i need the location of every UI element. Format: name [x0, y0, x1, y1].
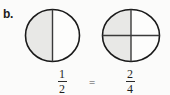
problem-label: b. [3, 8, 13, 20]
circle-quarters-figure [99, 8, 163, 63]
left-half-shaded [26, 10, 53, 62]
fraction-two-fourths: 2 4 [108, 68, 152, 95]
fraction-equivalence-figure: b. [0, 0, 170, 95]
fraction-one-half: 1 2 [40, 68, 84, 95]
equals-operator: = [82, 77, 102, 88]
circle-halves-figure [24, 8, 81, 63]
circle-quarters-svg [99, 8, 163, 63]
circle-halves-svg [24, 8, 81, 63]
equation-row: 1 2 = 2 4 [0, 66, 170, 95]
denominator: 4 [108, 82, 152, 95]
numerator: 2 [108, 68, 152, 81]
denominator: 2 [40, 82, 84, 95]
numerator: 1 [40, 68, 84, 81]
right-half-unshaded [53, 10, 80, 62]
